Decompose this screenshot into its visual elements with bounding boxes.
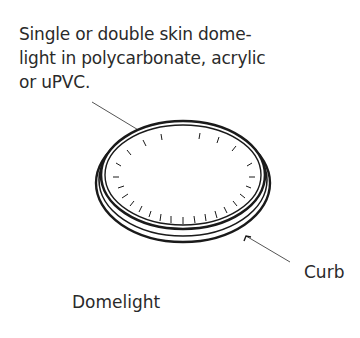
diagram-title: Domelight	[72, 292, 160, 312]
curb-leader-line	[246, 236, 290, 262]
dome-rim	[101, 121, 265, 229]
domelight-sketch	[0, 0, 360, 338]
curb-label: Curb	[304, 262, 344, 282]
